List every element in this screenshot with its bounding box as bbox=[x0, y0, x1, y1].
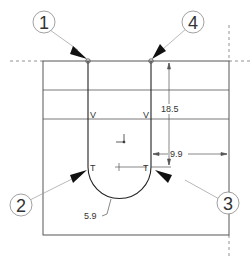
slot-profile bbox=[88, 61, 151, 199]
callout-2[interactable]: 2 bbox=[10, 194, 32, 216]
arrow-2-icon bbox=[70, 170, 87, 183]
callout-1[interactable]: 1 bbox=[33, 11, 55, 33]
callout-arrows bbox=[70, 44, 172, 183]
part-outline bbox=[43, 61, 229, 235]
marker-t-right: T bbox=[143, 163, 149, 173]
dimension-radius-label: 5.9 bbox=[84, 211, 97, 221]
dimension-radius-leader[interactable] bbox=[102, 199, 111, 216]
construction-lines bbox=[43, 90, 229, 119]
origin-icon bbox=[116, 134, 125, 143]
marker-v-left: V bbox=[90, 110, 96, 120]
dimension-height[interactable] bbox=[151, 63, 171, 167]
slot-drawing: 18.5 9.9 5.9 V V T T 1 4 2 3 bbox=[0, 0, 252, 265]
callout-leaders bbox=[30, 28, 221, 200]
arrow-1-icon bbox=[70, 46, 87, 59]
dimension-offset[interactable] bbox=[153, 153, 227, 156]
arrow-4-icon bbox=[152, 44, 166, 59]
callout-3[interactable]: 3 bbox=[217, 192, 239, 214]
callout-4[interactable]: 4 bbox=[182, 11, 204, 33]
marker-t-left: T bbox=[90, 163, 96, 173]
reference-lines bbox=[10, 25, 252, 258]
dimension-offset-label: 9.9 bbox=[170, 149, 183, 159]
svg-text:3: 3 bbox=[223, 194, 233, 214]
svg-text:2: 2 bbox=[16, 196, 26, 216]
svg-text:1: 1 bbox=[39, 13, 49, 33]
arrow-3-icon bbox=[155, 170, 172, 183]
svg-text:4: 4 bbox=[188, 13, 198, 33]
marker-v-right: V bbox=[143, 110, 149, 120]
dimension-height-label: 18.5 bbox=[161, 104, 179, 114]
